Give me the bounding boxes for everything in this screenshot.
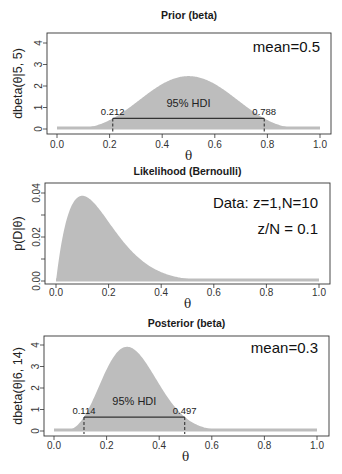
x-tick-label: 1.0 xyxy=(310,440,324,451)
y-tick-label: 0.02 xyxy=(31,227,42,247)
annotation-text: Data: z=1,N=10 xyxy=(213,194,318,211)
x-tick-label: 0.4 xyxy=(152,440,166,451)
y-tick-label: 4 xyxy=(30,342,41,348)
density-area xyxy=(54,347,317,431)
x-tick-label: 0.8 xyxy=(257,440,271,451)
y-axis-label: dbeta(θ|5, 5) xyxy=(11,48,25,119)
y-tick-label: 4 xyxy=(33,40,44,46)
y-axis-label: dbeta(θ|6, 14) xyxy=(11,347,25,425)
x-tick-label: 0.2 xyxy=(100,440,114,451)
hdi-low-value: 0.114 xyxy=(72,405,95,416)
hdi-label: 95% HDI xyxy=(112,395,156,407)
x-tick-label: 0.4 xyxy=(155,139,169,150)
y-tick-label: 1 xyxy=(33,104,44,110)
x-tick-label: 1.0 xyxy=(312,287,326,298)
density-baseline xyxy=(54,429,317,432)
panel-posterior: Posterior (beta)0.00.20.40.60.81.0θ01234… xyxy=(11,317,329,464)
x-tick-label: 0.2 xyxy=(102,287,116,298)
annotation-text: mean=0.5 xyxy=(253,38,320,55)
panel-likelihood: Likelihood (Bernoulli)0.00.20.40.60.81.0… xyxy=(11,165,330,311)
x-tick-label: 0.0 xyxy=(49,287,63,298)
y-tick-label: 3 xyxy=(30,363,41,369)
density-baseline xyxy=(57,127,320,130)
x-axis-label: θ xyxy=(184,297,191,311)
x-tick-label: 0.6 xyxy=(205,440,219,451)
panel-title: Posterior (beta) xyxy=(148,317,226,329)
y-axis-label: p(D|θ) xyxy=(11,216,25,251)
x-axis-label: θ xyxy=(182,450,189,464)
density-baseline xyxy=(56,279,319,282)
x-tick-label: 0.2 xyxy=(103,139,117,150)
y-tick-label: 1 xyxy=(30,406,41,412)
x-axis-label: θ xyxy=(185,149,192,163)
hdi-low-value: 0.212 xyxy=(101,106,125,117)
x-tick-label: 0.8 xyxy=(259,287,273,298)
hdi-label: 95% HDI xyxy=(166,97,210,109)
panel-prior: Prior (beta)0.00.20.40.60.81.0θ01234dbet… xyxy=(11,9,331,163)
annotation-text: z/N = 0.1 xyxy=(258,220,318,237)
annotation-text: mean=0.3 xyxy=(251,339,318,356)
y-tick-label: 2 xyxy=(30,385,41,391)
x-tick-label: 0.4 xyxy=(154,287,168,298)
hdi-high-value: 0.497 xyxy=(173,405,197,416)
panel-title: Prior (beta) xyxy=(161,9,217,21)
bayes-update-figure: Prior (beta)0.00.20.40.60.81.0θ01234dbet… xyxy=(0,0,342,474)
panel-title: Likelihood (Bernoulli) xyxy=(134,165,242,177)
x-tick-label: 0.6 xyxy=(208,139,222,150)
x-tick-label: 1.0 xyxy=(313,139,327,150)
y-tick-label: 2 xyxy=(33,83,44,89)
x-tick-label: 0.6 xyxy=(207,287,221,298)
y-tick-label: 0 xyxy=(33,126,44,132)
y-tick-label: 0.04 xyxy=(31,183,42,203)
y-tick-label: 0.00 xyxy=(31,271,42,291)
y-tick-label: 3 xyxy=(33,61,44,67)
x-tick-label: 0.8 xyxy=(260,139,274,150)
hdi-high-value: 0.788 xyxy=(252,106,276,117)
y-tick-label: 0 xyxy=(30,428,41,434)
x-tick-label: 0.0 xyxy=(47,440,61,451)
x-tick-label: 0.0 xyxy=(50,139,64,150)
